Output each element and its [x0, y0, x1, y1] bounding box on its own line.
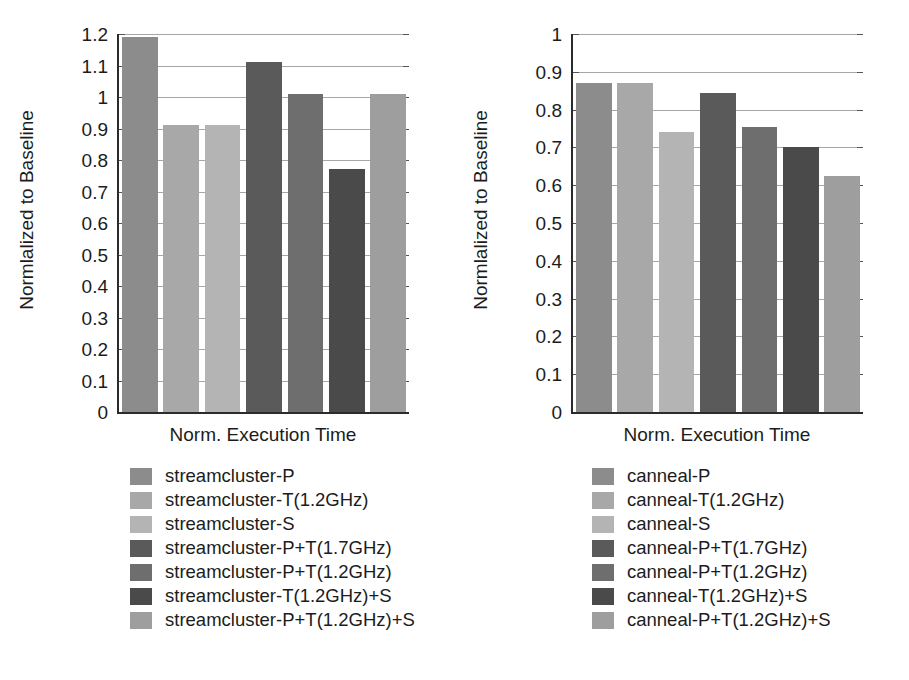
bar: [163, 125, 199, 412]
y-tick-label: 0.6: [82, 214, 108, 233]
legend-item[interactable]: canneal-T(1.2GHz)+S: [592, 584, 831, 608]
legend-item-label: canneal-T(1.2GHz): [627, 491, 784, 510]
y-tick-label: 0.6: [536, 176, 562, 195]
legend-item[interactable]: canneal-T(1.2GHz): [592, 488, 831, 512]
bar: [700, 93, 736, 412]
y-tick-label: 0.9: [82, 119, 108, 138]
y-axis-title-left: Normlalized to Baseline: [10, 0, 44, 420]
legend-item[interactable]: canneal-S: [592, 512, 831, 536]
bar-slot: [614, 34, 655, 412]
y-tick-label: 0.5: [82, 245, 108, 264]
legend-item-label: canneal-P+T(1.2GHz)+S: [627, 611, 831, 630]
legend-item[interactable]: streamcluster-T(1.2GHz)+S: [130, 584, 415, 608]
bar-slot: [822, 34, 863, 412]
legend-swatch-icon: [130, 540, 152, 557]
legend-item-label: streamcluster-T(1.2GHz): [165, 491, 369, 510]
legend-item-label: streamcluster-P+T(1.7GHz): [165, 539, 392, 558]
y-tick-label: 0.8: [82, 151, 108, 170]
legend-item-label: canneal-P: [627, 467, 710, 486]
legend-swatch-icon: [130, 516, 152, 533]
legend-item-label: streamcluster-P+T(1.2GHz)+S: [165, 611, 415, 630]
bar-slot: [285, 34, 326, 412]
bar-slot: [243, 34, 284, 412]
legend-swatch-icon: [592, 540, 614, 557]
chart-panel-streamcluster: Normlalized to Baseline 1.21.110.90.80.7…: [0, 0, 455, 680]
legend-swatch-icon: [592, 492, 614, 509]
legend-item-label: streamcluster-S: [165, 515, 295, 534]
bar-slot: [739, 34, 780, 412]
y-tick-label: 0.7: [82, 182, 108, 201]
bar: [288, 94, 324, 412]
y-tick-label: 0.8: [536, 100, 562, 119]
bar: [205, 125, 241, 412]
legend-item[interactable]: streamcluster-P+T(1.2GHz)+S: [130, 608, 415, 632]
x-axis-title-right: Norm. Execution Time: [571, 424, 863, 446]
bar: [742, 127, 778, 412]
bar-slot: [202, 34, 243, 412]
legend-swatch-icon: [130, 612, 152, 629]
bar: [824, 176, 860, 412]
chart-area-left: Normlalized to Baseline 1.21.110.90.80.7…: [0, 0, 455, 460]
chart-panel-canneal: Normlalized to Baseline 10.90.80.70.60.5…: [454, 0, 909, 680]
legend-swatch-icon: [130, 492, 152, 509]
legend-item-label: canneal-P+T(1.2GHz): [627, 563, 807, 582]
y-tick-label: 0.4: [82, 277, 108, 296]
bar: [329, 169, 365, 412]
legend-swatch-icon: [130, 588, 152, 605]
bar-slot: [326, 34, 367, 412]
legend-item[interactable]: canneal-P+T(1.7GHz): [592, 536, 831, 560]
legend-item-label: streamcluster-P+T(1.2GHz): [165, 563, 392, 582]
chart-area-right: Normlalized to Baseline 10.90.80.70.60.5…: [454, 0, 909, 460]
plot-area-right: [571, 34, 863, 414]
legend-swatch-icon: [130, 468, 152, 485]
bar-slot: [160, 34, 201, 412]
y-tick-label: 0: [97, 403, 108, 422]
legend-item[interactable]: streamcluster-P+T(1.2GHz): [130, 560, 415, 584]
y-tick-label: 0: [551, 403, 562, 422]
y-tick-label: 0.2: [82, 340, 108, 359]
y-tick-label: 1.1: [82, 56, 108, 75]
legend-swatch-icon: [592, 588, 614, 605]
bar-slot: [780, 34, 821, 412]
legend-item[interactable]: canneal-P: [592, 464, 831, 488]
y-tick-label: 0.1: [82, 371, 108, 390]
y-tick-label: 0.7: [536, 138, 562, 157]
legend-swatch-icon: [592, 612, 614, 629]
legend-swatch-icon: [592, 564, 614, 581]
bar-series-left: [119, 34, 409, 412]
legend-item[interactable]: canneal-P+T(1.2GHz): [592, 560, 831, 584]
legend-left: streamcluster-Pstreamcluster-T(1.2GHz)st…: [130, 464, 415, 632]
legend-item-label: streamcluster-P: [165, 467, 295, 486]
y-axis-title-right: Normlalized to Baseline: [464, 0, 498, 420]
legend-swatch-icon: [592, 468, 614, 485]
legend-right: canneal-Pcanneal-T(1.2GHz)canneal-Scanne…: [592, 464, 831, 632]
y-tick-label: 0.4: [536, 251, 562, 270]
bar: [122, 37, 158, 412]
legend-item[interactable]: canneal-P+T(1.2GHz)+S: [592, 608, 831, 632]
bar-slot: [656, 34, 697, 412]
bar: [659, 132, 695, 412]
plot-area-left: [117, 34, 409, 414]
bar-series-right: [573, 34, 863, 412]
legend-swatch-icon: [130, 564, 152, 581]
y-tick-label: 1.2: [82, 25, 108, 44]
y-tick-label: 0.5: [536, 214, 562, 233]
legend-item-label: streamcluster-T(1.2GHz)+S: [165, 587, 392, 606]
legend-item[interactable]: streamcluster-T(1.2GHz): [130, 488, 415, 512]
y-tick-label: 1: [97, 88, 108, 107]
bar: [617, 83, 653, 412]
legend-item[interactable]: streamcluster-P: [130, 464, 415, 488]
legend-swatch-icon: [592, 516, 614, 533]
bar: [370, 94, 406, 412]
legend-item-label: canneal-P+T(1.7GHz): [627, 539, 807, 558]
y-tick-label: 0.3: [82, 308, 108, 327]
x-axis-title-left: Norm. Execution Time: [117, 424, 409, 446]
bar: [576, 83, 612, 412]
legend-item[interactable]: streamcluster-P+T(1.7GHz): [130, 536, 415, 560]
bar: [783, 147, 819, 412]
legend-item[interactable]: streamcluster-S: [130, 512, 415, 536]
y-axis-tick-labels-left: 1.21.110.90.80.70.60.50.40.30.20.10: [48, 0, 108, 420]
bar-slot: [368, 34, 409, 412]
y-axis-tick-labels-right: 10.90.80.70.60.50.40.30.20.10: [502, 0, 562, 420]
bar-slot: [119, 34, 160, 412]
